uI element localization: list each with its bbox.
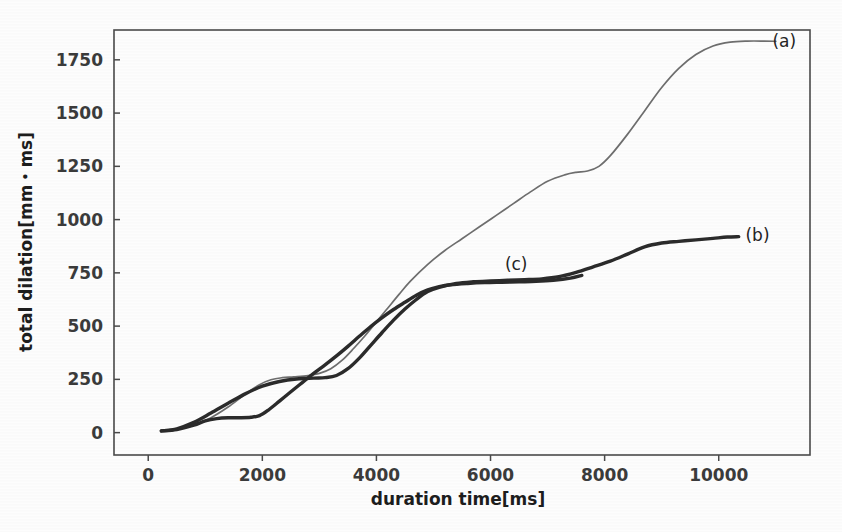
series-line-c <box>161 275 581 431</box>
line-chart: 0200040006000800010000025050075010001250… <box>0 0 842 532</box>
x-tick-label: 4000 <box>353 465 400 485</box>
y-axis-title: total dilation[mm・ms] <box>16 132 36 352</box>
series-layer <box>161 41 775 431</box>
y-tick-label: 1000 <box>56 210 103 230</box>
y-tick-label: 0 <box>91 423 103 443</box>
y-tick-label: 1250 <box>56 156 103 176</box>
y-tick-label: 1750 <box>56 50 103 70</box>
y-tick-label: 1500 <box>56 103 103 123</box>
x-tick-label: 0 <box>142 465 154 485</box>
curve-label-c: (c) <box>505 254 528 274</box>
x-tick-label: 6000 <box>467 465 514 485</box>
x-axis-title: duration time[ms] <box>371 489 545 509</box>
y-tick-label: 750 <box>68 263 104 283</box>
y-tick-label: 250 <box>68 369 104 389</box>
chart-figure: 0200040006000800010000025050075010001250… <box>0 0 842 532</box>
curve-label-b: (b) <box>745 225 769 245</box>
x-tick-label: 10000 <box>689 465 748 485</box>
y-tick-label: 500 <box>68 316 104 336</box>
curve-label-a: (a) <box>772 31 796 51</box>
x-tick-label: 8000 <box>581 465 628 485</box>
x-tick-label: 2000 <box>239 465 286 485</box>
annotations-layer: (a)(b)(c) <box>505 31 796 275</box>
series-line-b <box>161 237 738 431</box>
axes-layer: 0200040006000800010000025050075010001250… <box>56 30 810 485</box>
plot-frame <box>114 30 810 455</box>
series-line-a <box>161 41 775 431</box>
